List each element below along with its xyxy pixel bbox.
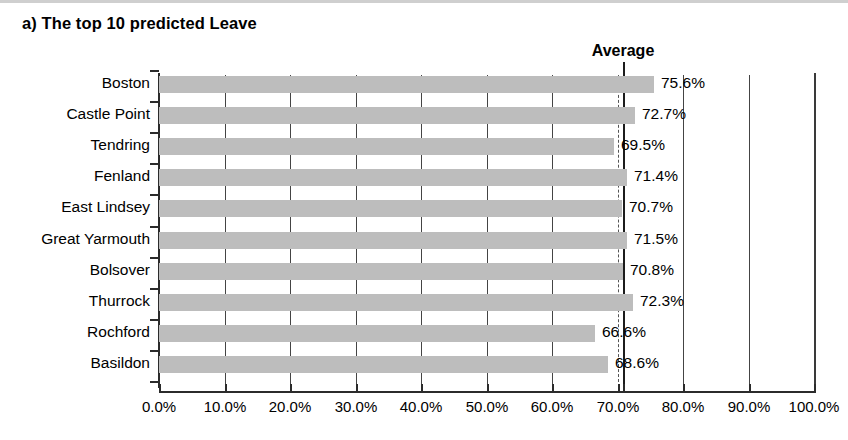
x-axis-tick-label: 10.0%	[204, 398, 247, 415]
bar-value-label: 68.6%	[615, 354, 659, 372]
average-annotation-label: Average	[561, 42, 685, 60]
y-axis-category-label: Castle Point	[6, 105, 156, 123]
bar-boston	[159, 76, 654, 93]
x-axis-tick-100	[814, 384, 816, 393]
bar-bolsover	[159, 263, 623, 280]
x-axis-tick-20	[290, 384, 292, 393]
x-axis-tick-30	[356, 384, 358, 393]
x-axis-tick-label: 70.0%	[597, 398, 640, 415]
bar-great-yarmouth	[159, 232, 627, 249]
y-axis-category-label: East Lindsey	[6, 198, 156, 216]
x-axis-tick-label: 0.0%	[142, 398, 176, 415]
x-axis-tick-label: 20.0%	[269, 398, 312, 415]
bar-tendring	[159, 138, 614, 155]
x-axis-tick-80	[683, 384, 685, 393]
y-axis-category-label: Great Yarmouth	[6, 230, 156, 248]
bar-rochford	[159, 325, 595, 342]
y-axis-labels: BostonCastle PointTendringFenlandEast Li…	[0, 0, 156, 440]
bar-value-label: 71.5%	[634, 230, 678, 248]
bar-castle-point	[159, 107, 635, 124]
x-axis-tick-label: 80.0%	[662, 398, 705, 415]
bar-value-label: 71.4%	[634, 167, 678, 185]
x-axis-tick-70	[618, 384, 620, 393]
x-axis-tick-60	[552, 384, 554, 393]
y-axis-category-label: Bolsover	[6, 261, 156, 279]
bar-value-label: 72.7%	[642, 105, 686, 123]
y-axis-tick-1	[150, 101, 159, 103]
y-axis-tick-3	[150, 163, 159, 165]
y-axis-tick-8	[150, 319, 159, 321]
y-axis-category-label: Boston	[6, 74, 156, 92]
bar-value-label: 72.3%	[640, 292, 684, 310]
y-axis-tick-0	[150, 70, 159, 72]
y-axis-category-label: Basildon	[6, 354, 156, 372]
bar-value-label: 75.6%	[661, 74, 705, 92]
gridline-100	[814, 73, 816, 391]
x-axis-tick-label: 100.0%	[789, 398, 840, 415]
x-axis-tick-90	[749, 384, 751, 393]
x-axis-tick-40	[421, 384, 423, 393]
y-axis-tick-10	[150, 381, 159, 383]
y-axis-category-label: Thurrock	[6, 292, 156, 310]
bar-value-label: 70.8%	[630, 261, 674, 279]
bar-basildon	[159, 356, 608, 373]
x-axis-tick-50	[487, 384, 489, 393]
y-axis-tick-5	[150, 226, 159, 228]
y-axis-category-label: Rochford	[6, 323, 156, 341]
x-axis-tick-0	[159, 384, 161, 393]
chart-figure: a) The top 10 predicted Leave Average Bo…	[0, 0, 848, 440]
x-axis-tick-label: 30.0%	[335, 398, 378, 415]
bar-east-lindsey	[159, 200, 622, 217]
x-axis-tick-label: 50.0%	[466, 398, 509, 415]
y-axis-tick-2	[150, 132, 159, 134]
x-axis-tick-average	[623, 384, 625, 393]
y-axis-tick-4	[150, 194, 159, 196]
gridline-90	[749, 75, 750, 387]
bar-value-label: 70.7%	[629, 198, 673, 216]
bar-thurrock	[159, 294, 633, 311]
bar-value-label: 66.6%	[602, 323, 646, 341]
y-axis-tick-7	[150, 288, 159, 290]
y-axis-tick-9	[150, 350, 159, 352]
x-axis-tick-10	[225, 384, 227, 393]
y-axis-tick-6	[150, 257, 159, 259]
x-axis-tick-label: 60.0%	[531, 398, 574, 415]
y-axis-category-label: Fenland	[6, 167, 156, 185]
x-axis-tick-label: 40.0%	[400, 398, 443, 415]
bar-fenland	[159, 169, 627, 186]
y-axis-category-label: Tendring	[6, 136, 156, 154]
x-axis-tick-label: 90.0%	[728, 398, 771, 415]
bar-value-label: 69.5%	[621, 136, 665, 154]
